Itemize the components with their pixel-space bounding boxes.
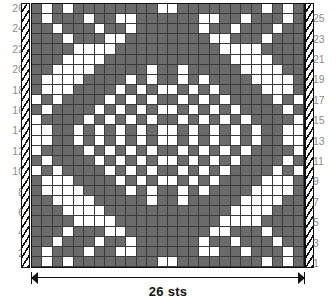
stitch-cell[interactable] <box>178 115 188 125</box>
stitch-cell[interactable] <box>231 237 241 247</box>
stitch-cell[interactable] <box>241 206 251 216</box>
stitch-cell[interactable] <box>32 115 42 125</box>
stitch-cell[interactable] <box>168 136 178 146</box>
stitch-cell[interactable] <box>231 115 241 125</box>
stitch-cell[interactable] <box>84 65 94 75</box>
stitch-cell[interactable] <box>63 125 73 135</box>
stitch-cell[interactable] <box>273 136 283 146</box>
stitch-cell[interactable] <box>262 216 272 226</box>
stitch-cell[interactable] <box>210 136 220 146</box>
stitch-cell[interactable] <box>199 4 209 14</box>
stitch-cell[interactable] <box>74 186 84 196</box>
stitch-cell[interactable] <box>262 105 272 115</box>
stitch-cell[interactable] <box>95 14 105 24</box>
stitch-cell[interactable] <box>105 34 115 44</box>
stitch-cell[interactable] <box>53 166 63 176</box>
stitch-cell[interactable] <box>262 237 272 247</box>
stitch-cell[interactable] <box>252 146 262 156</box>
stitch-cell[interactable] <box>210 156 220 166</box>
stitch-cell[interactable] <box>137 125 147 135</box>
stitch-cell[interactable] <box>231 14 241 24</box>
stitch-cell[interactable] <box>63 65 73 75</box>
stitch-cell[interactable] <box>189 186 199 196</box>
stitch-cell[interactable] <box>283 75 293 85</box>
stitch-cell[interactable] <box>126 65 136 75</box>
stitch-cell[interactable] <box>95 186 105 196</box>
stitch-cell[interactable] <box>126 156 136 166</box>
stitch-cell[interactable] <box>63 136 73 146</box>
stitch-cell[interactable] <box>74 216 84 226</box>
stitch-cell[interactable] <box>262 146 272 156</box>
stitch-cell[interactable] <box>199 237 209 247</box>
stitch-cell[interactable] <box>273 34 283 44</box>
stitch-cell[interactable] <box>178 257 188 267</box>
stitch-cell[interactable] <box>273 237 283 247</box>
stitch-cell[interactable] <box>53 247 63 257</box>
stitch-cell[interactable] <box>53 146 63 156</box>
stitch-cell[interactable] <box>220 14 230 24</box>
stitch-cell[interactable] <box>220 216 230 226</box>
stitch-cell[interactable] <box>116 237 126 247</box>
stitch-cell[interactable] <box>199 75 209 85</box>
stitch-cell[interactable] <box>241 34 251 44</box>
stitch-cell[interactable] <box>95 105 105 115</box>
stitch-cell[interactable] <box>241 14 251 24</box>
stitch-cell[interactable] <box>84 115 94 125</box>
stitch-cell[interactable] <box>178 55 188 65</box>
stitch-cell[interactable] <box>95 65 105 75</box>
stitch-cell[interactable] <box>210 216 220 226</box>
stitch-cell[interactable] <box>53 125 63 135</box>
stitch-cell[interactable] <box>189 24 199 34</box>
stitch-cell[interactable] <box>126 237 136 247</box>
stitch-cell[interactable] <box>95 206 105 216</box>
stitch-cell[interactable] <box>273 75 283 85</box>
stitch-cell[interactable] <box>273 55 283 65</box>
stitch-cell[interactable] <box>158 115 168 125</box>
stitch-cell[interactable] <box>210 95 220 105</box>
stitch-cell[interactable] <box>63 115 73 125</box>
stitch-cell[interactable] <box>42 166 52 176</box>
stitch-cell[interactable] <box>53 105 63 115</box>
stitch-cell[interactable] <box>231 85 241 95</box>
stitch-cell[interactable] <box>32 196 42 206</box>
stitch-cell[interactable] <box>241 105 251 115</box>
stitch-cell[interactable] <box>84 136 94 146</box>
stitch-cell[interactable] <box>189 206 199 216</box>
stitch-cell[interactable] <box>53 136 63 146</box>
stitch-cell[interactable] <box>220 196 230 206</box>
stitch-cell[interactable] <box>137 44 147 54</box>
stitch-cell[interactable] <box>95 95 105 105</box>
stitch-cell[interactable] <box>32 136 42 146</box>
stitch-cell[interactable] <box>158 4 168 14</box>
stitch-cell[interactable] <box>252 186 262 196</box>
stitch-cell[interactable] <box>74 237 84 247</box>
stitch-cell[interactable] <box>241 125 251 135</box>
stitch-cell[interactable] <box>199 176 209 186</box>
stitch-cell[interactable] <box>105 227 115 237</box>
stitch-cell[interactable] <box>210 206 220 216</box>
stitch-cell[interactable] <box>32 24 42 34</box>
stitch-cell[interactable] <box>126 4 136 14</box>
stitch-cell[interactable] <box>32 166 42 176</box>
stitch-cell[interactable] <box>178 105 188 115</box>
stitch-cell[interactable] <box>189 4 199 14</box>
stitch-cell[interactable] <box>53 34 63 44</box>
stitch-cell[interactable] <box>147 136 157 146</box>
stitch-cell[interactable] <box>105 65 115 75</box>
stitch-cell[interactable] <box>283 14 293 24</box>
stitch-cell[interactable] <box>199 95 209 105</box>
stitch-cell[interactable] <box>220 136 230 146</box>
stitch-cell[interactable] <box>105 24 115 34</box>
stitch-cell[interactable] <box>231 146 241 156</box>
stitch-cell[interactable] <box>137 136 147 146</box>
stitch-cell[interactable] <box>168 257 178 267</box>
stitch-cell[interactable] <box>74 125 84 135</box>
stitch-cell[interactable] <box>53 95 63 105</box>
stitch-cell[interactable] <box>147 14 157 24</box>
stitch-cell[interactable] <box>231 65 241 75</box>
stitch-cell[interactable] <box>283 136 293 146</box>
stitch-cell[interactable] <box>294 105 304 115</box>
stitch-cell[interactable] <box>231 125 241 135</box>
stitch-cell[interactable] <box>63 24 73 34</box>
stitch-cell[interactable] <box>189 14 199 24</box>
